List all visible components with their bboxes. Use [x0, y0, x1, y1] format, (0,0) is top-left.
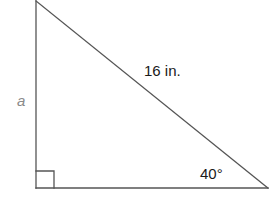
angle-label: 40°	[200, 166, 223, 181]
hypotenuse	[36, 1, 268, 188]
hypotenuse-length-label: 16 in.	[144, 63, 181, 78]
triangle-drawing	[0, 0, 270, 215]
side-a-label: a	[17, 93, 25, 108]
right-angle-marker	[36, 171, 54, 188]
right-triangle-diagram: 16 in. a 40°	[0, 0, 270, 215]
